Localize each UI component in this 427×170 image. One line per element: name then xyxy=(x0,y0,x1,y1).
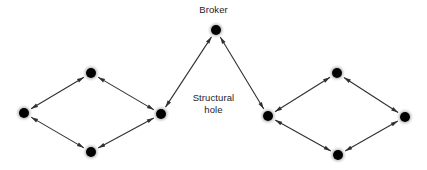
arrowhead-forward xyxy=(77,77,84,82)
node-core xyxy=(86,147,96,157)
arrowhead-forward xyxy=(323,77,330,82)
edge-line xyxy=(98,118,154,148)
edge-left_outer-to-left_bottom xyxy=(31,117,84,148)
broker-label: Broker xyxy=(0,4,427,16)
arrowhead-backward xyxy=(345,146,352,151)
arrowhead-backward xyxy=(98,143,105,148)
edge-right_hub-to-right_bottom xyxy=(275,120,331,151)
structural-hole-label: Structural hole xyxy=(0,92,427,115)
edge-right_bottom-to-right_outer xyxy=(345,121,398,151)
edge-line xyxy=(345,121,398,151)
node-core xyxy=(333,150,343,160)
arrowhead-backward xyxy=(31,117,38,122)
node-right_top xyxy=(329,65,345,81)
node-core xyxy=(86,68,96,78)
node-left_top xyxy=(83,65,99,81)
node-core xyxy=(211,25,221,35)
node-core xyxy=(332,68,342,78)
node-broker xyxy=(208,22,224,38)
arrowhead-forward xyxy=(206,37,212,44)
arrowhead-backward xyxy=(220,37,225,44)
network-diagram: Broker Structural hole xyxy=(0,0,427,170)
edge-line xyxy=(275,120,331,151)
arrowhead-backward xyxy=(275,120,282,125)
arrowhead-forward xyxy=(324,146,331,151)
arrowhead-forward xyxy=(147,118,154,123)
network-graph-canvas xyxy=(0,0,427,170)
arrowhead-forward xyxy=(77,143,84,148)
node-right_bottom xyxy=(330,147,346,163)
edge-line xyxy=(31,117,84,148)
arrowhead-backward xyxy=(98,77,105,82)
edge-left_bottom-to-left_hub xyxy=(98,118,154,148)
arrowhead-forward xyxy=(391,121,398,126)
node-left_bottom xyxy=(83,144,99,160)
arrowhead-backward xyxy=(344,77,351,82)
